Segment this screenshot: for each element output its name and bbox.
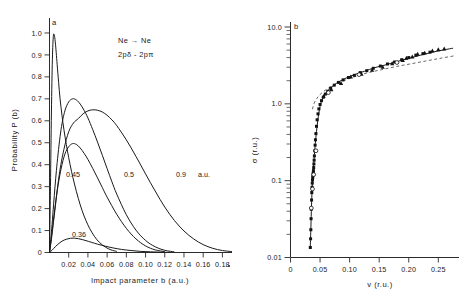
- panel-a-y-tick-label: 0.3: [31, 182, 42, 191]
- panel-a-x-tick-label: 0.18: [215, 260, 230, 269]
- panel-b-theory-solid: [310, 48, 453, 246]
- panel-b-point-square: [311, 182, 314, 185]
- panel-b-point-square: [365, 69, 368, 72]
- panel-a-canvas: 00.10.20.30.40.50.60.70.80.91.0 0.020.04…: [0, 0, 235, 300]
- panel-b-point-square: [316, 118, 319, 121]
- panel-b-x-tick-label: 0.25: [431, 265, 446, 274]
- panel-b-point-square: [310, 217, 313, 220]
- panel-a-annotation-1: Ne → Ne: [118, 36, 151, 45]
- panel-a-curve-label-0.36: 0.36: [72, 230, 86, 239]
- panel-b-point-square: [319, 103, 322, 106]
- figure-root: 00.10.20.30.40.50.60.70.80.91.0 0.020.04…: [0, 0, 470, 300]
- panel-b-point-open-circle: [311, 187, 315, 191]
- panel-b-point-open-circle: [357, 73, 361, 77]
- panel-b-x-tick-label: 0.10: [342, 265, 357, 274]
- panel-b-label: b: [294, 22, 298, 31]
- panel-a-x-tick-label: 0.02: [61, 260, 76, 269]
- panel-b-x-tick-label: 0.05: [313, 265, 328, 274]
- panel-b-point-open-circle: [326, 91, 330, 95]
- panel-a-curve-labels: 0.360.450.50.9a.u.: [66, 170, 210, 239]
- panel-b-theory-dashed: [312, 56, 453, 109]
- panel-a-curve-label-0.45: 0.45: [66, 170, 80, 179]
- panel-a-y-tick-label: 0.9: [31, 51, 42, 60]
- panel-b-point-square: [317, 107, 320, 110]
- panel-b-point-square: [379, 65, 382, 68]
- panel-a-y-ticks: 00.10.20.30.40.50.60.70.80.91.0: [31, 29, 49, 258]
- panel-a-units-label: a.u.: [198, 170, 210, 179]
- panel-b-point-triangle: [430, 49, 434, 53]
- panel-a-curve-0.45: [50, 143, 165, 252]
- panel-b-point-square: [333, 84, 336, 87]
- panel-b-x-tick-label: 0.20: [401, 265, 416, 274]
- panel-b-point-triangle: [442, 47, 446, 51]
- panel-b-point-square: [312, 162, 315, 165]
- panel-b-x-axis-label: v (r.u.): [367, 280, 393, 289]
- panel-b-point-square: [309, 237, 312, 240]
- panel-b-fit-lines: [310, 48, 453, 246]
- panel-b-point-triangle: [436, 47, 440, 51]
- panel-b-y-tick-label: 0.01: [267, 253, 282, 262]
- panel-b-y-tick-label: 0.1: [271, 176, 282, 185]
- panel-a-y-tick-label: 0.4: [31, 160, 42, 169]
- panel-b-point-square: [314, 144, 317, 147]
- panel-b-x-tick-label: 0.15: [372, 265, 387, 274]
- panel-a-curve-label-0.5: 0.5: [124, 170, 134, 179]
- panel-a-annotation-2: 2pδ - 2pπ: [118, 50, 154, 59]
- panel-b-x-ticks: 00.050.100.150.200.25: [288, 258, 445, 275]
- panel-a-x-tick-label: 0.16: [196, 260, 211, 269]
- panel-a-x-tick-label: 0.12: [157, 260, 172, 269]
- panel-a-x-tick-label: 0.04: [81, 260, 96, 269]
- panel-b-point-open-circle: [309, 206, 313, 210]
- panel-a-y-tick-label: 0: [38, 248, 42, 257]
- panel-a-x-tick-label: 0.06: [100, 260, 115, 269]
- panel-a-y-axis-label: Probability P (b): [10, 109, 19, 171]
- panel-b-data-points: [309, 47, 447, 249]
- panel-b-y-axis-label: σ (r.u.): [250, 137, 259, 163]
- panel-a-y-tick-label: 0.6: [31, 116, 42, 125]
- panel-b-point-square: [309, 228, 312, 231]
- panel-b-point-square: [320, 99, 323, 102]
- panel-a-x-ticks: 0.020.040.060.080.100.120.140.160.18: [61, 253, 229, 270]
- panel-b-point-square: [314, 138, 317, 141]
- panel-a-label: a: [52, 18, 57, 27]
- panel-b-point-square: [313, 159, 316, 162]
- panel-b-point-square: [337, 81, 340, 84]
- panel-b-point-triangle: [410, 55, 414, 59]
- panel-a-y-tick-label: 0.5: [31, 138, 42, 147]
- panel-b-point-square: [342, 78, 345, 81]
- panel-a-x-tick-label: 0.14: [177, 260, 192, 269]
- panel-b: 0.010.11.010.0 00.050.100.150.200.25 b v…: [235, 0, 470, 300]
- panel-b-canvas: 0.010.11.010.0 00.050.100.150.200.25 b v…: [235, 0, 470, 300]
- panel-a: 00.10.20.30.40.50.60.70.80.91.0 0.020.04…: [0, 0, 235, 300]
- panel-a-y-tick-label: 0.1: [31, 226, 42, 235]
- panel-a-y-tick-label: 0.7: [31, 94, 42, 103]
- panel-b-point-open-circle: [395, 61, 399, 65]
- panel-b-point-square: [310, 191, 313, 194]
- panel-a-curves: [50, 34, 233, 253]
- panel-b-point-square: [310, 199, 313, 202]
- stray-speck: [228, 265, 230, 267]
- panel-a-curve-label-0.9: 0.9: [176, 170, 186, 179]
- panel-b-point-square: [386, 62, 389, 65]
- panel-b-point-square: [313, 154, 316, 157]
- panel-b-point-square: [353, 74, 356, 77]
- panel-b-point-square: [315, 125, 318, 128]
- panel-a-x-tick-label: 0.10: [138, 260, 153, 269]
- panel-b-point-square: [309, 246, 312, 249]
- panel-b-point-square: [312, 169, 315, 172]
- panel-b-point-square: [314, 132, 317, 135]
- panel-a-y-tick-label: 1.0: [31, 29, 42, 38]
- panel-a-x-axis-label: Impact parameter b (a.u.): [91, 276, 189, 285]
- panel-b-point-open-circle: [314, 149, 318, 153]
- panel-a-x-tick-label: 0.08: [119, 260, 134, 269]
- panel-b-x-tick-label: 0: [288, 265, 292, 274]
- panel-b-point-square: [316, 112, 319, 115]
- panel-b-point-square: [312, 166, 315, 169]
- panel-a-y-tick-label: 0.2: [31, 204, 42, 213]
- panel-b-y-tick-label: 10.0: [267, 23, 282, 32]
- panel-b-point-open-circle: [312, 173, 316, 177]
- panel-a-y-tick-label: 0.8: [31, 72, 42, 81]
- panel-b-y-tick-label: 1.0: [271, 99, 282, 108]
- panel-b-y-ticks: 0.010.11.010.0: [267, 23, 290, 263]
